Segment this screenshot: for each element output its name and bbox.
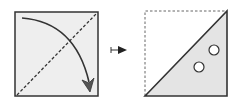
folded-triangle: [145, 11, 227, 96]
hole-1: [209, 45, 219, 55]
unfolded-square: [15, 12, 98, 96]
fold-diagram: [0, 0, 242, 101]
maps-to-arrow-icon: [111, 46, 127, 54]
hole-2: [194, 62, 204, 72]
